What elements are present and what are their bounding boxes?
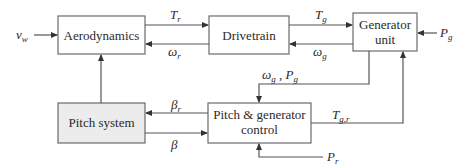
signal-beta: β	[170, 137, 178, 152]
pitch-system-label: Pitch system	[68, 115, 134, 130]
power-reference-arrow	[259, 144, 323, 157]
signal-beta-r: βr	[170, 97, 181, 114]
pitch-generator-control-block: Pitch & generator control	[208, 103, 311, 143]
torque-reference-arrow	[311, 52, 403, 123]
generator-unit-block: Generator unit	[353, 13, 417, 51]
aerodynamics-label: Aerodynamics	[64, 28, 140, 43]
generator-label-line2: unit	[375, 32, 396, 47]
signal-Pg: Pg	[439, 25, 453, 42]
signal-omega-g: ωg	[313, 44, 327, 61]
signal-Pr: Pr	[326, 149, 339, 166]
control-label-line1: Pitch & generator	[213, 107, 306, 122]
signal-Tr: Tr	[170, 7, 181, 24]
signal-Tgr: Tg,r	[332, 107, 350, 124]
signal-Tg: Tg	[315, 7, 327, 24]
drivetrain-block: Drivetrain	[209, 16, 289, 54]
wind-turbine-block-diagram: Aerodynamics Drivetrain Generator unit P…	[0, 0, 466, 168]
control-label-line2: control	[241, 122, 278, 137]
signal-feedback: ωg , Pg	[262, 67, 298, 84]
aerodynamics-block: Aerodynamics	[58, 16, 145, 54]
drivetrain-label: Drivetrain	[222, 28, 276, 43]
pitch-system-block: Pitch system	[58, 103, 145, 143]
generator-label-line1: Generator	[359, 17, 412, 32]
signal-omega-r: ωr	[168, 44, 181, 61]
signal-vw: vw	[16, 27, 28, 44]
